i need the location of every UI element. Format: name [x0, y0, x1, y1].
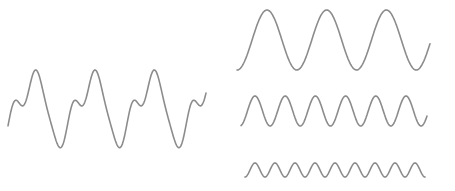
component-wave-3 — [245, 163, 425, 177]
composite-wave — [8, 70, 206, 148]
fourier-diagram — [0, 0, 455, 191]
component-wave-1 — [237, 10, 430, 70]
component-wave-2 — [241, 96, 427, 126]
